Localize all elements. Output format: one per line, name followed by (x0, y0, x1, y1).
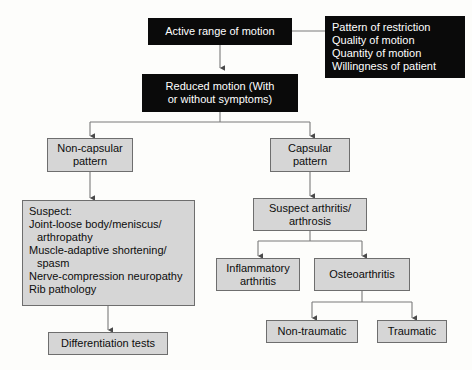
node-active-range-of-motion[interactable]: Active range of motion (148, 18, 292, 45)
node-text-line: Willingness of patient (332, 60, 436, 73)
node-text-line: pattern (73, 155, 107, 168)
node-text-line: or without symptoms) (168, 93, 273, 106)
flowchart-canvas: Active range of motion Pattern of restri… (0, 0, 472, 370)
node-suspect-list[interactable]: Suspect:Joint-loose body/meniscus/arthro… (22, 200, 195, 306)
node-text-line: Active range of motion (165, 25, 274, 38)
node-differentiation-tests[interactable]: Differentiation tests (48, 332, 168, 355)
node-text-line: Differentiation tests (61, 337, 155, 350)
node-text-line: arthropathy (29, 231, 93, 244)
node-inflammatory-arthritis[interactable]: Inflammatoryarthritis (216, 258, 300, 291)
node-text-line: Capsular (288, 142, 332, 155)
node-text-line: Non-traumatic (277, 325, 346, 338)
node-text-line: Nerve-compression neuropathy (29, 270, 182, 283)
node-text-line: Traumatic (388, 325, 437, 338)
node-capsular-pattern[interactable]: Capsularpattern (270, 138, 350, 172)
node-text-line: pattern (293, 155, 327, 168)
node-text-line: Quality of motion (332, 34, 415, 47)
node-text-line: Non-capsular (57, 142, 122, 155)
node-non-traumatic[interactable]: Non-traumatic (266, 320, 358, 343)
node-text-line: Suspect arthritis/ (269, 202, 351, 215)
node-text-line: Muscle-adaptive shortening/ (29, 244, 167, 257)
node-text-line: spasm (29, 257, 69, 270)
node-suspect-arthritis[interactable]: Suspect arthritis/arthrosis (253, 198, 367, 231)
node-text-line: arthritis (240, 275, 276, 288)
node-non-capsular-pattern[interactable]: Non-capsularpattern (47, 138, 133, 172)
node-text-line: Suspect: (29, 205, 72, 218)
node-traumatic[interactable]: Traumatic (377, 320, 447, 343)
node-text-line: Pattern of restriction (332, 21, 430, 34)
node-text-line: Quantity of motion (332, 47, 421, 60)
node-restriction-criteria[interactable]: Pattern of restrictionQuality of motionQ… (325, 16, 465, 78)
node-text-line: Rib pathology (29, 283, 96, 296)
node-reduced-motion[interactable]: Reduced motion (Withor without symptoms) (142, 74, 298, 112)
node-text-line: Reduced motion (With (166, 80, 275, 93)
node-text-line: Inflammatory (226, 262, 290, 275)
node-osteoarthritis[interactable]: Osteoarthritis (314, 258, 410, 291)
node-text-line: arthrosis (289, 215, 331, 228)
node-text-line: Joint-loose body/meniscus/ (29, 218, 162, 231)
node-text-line: Osteoarthritis (329, 268, 394, 281)
